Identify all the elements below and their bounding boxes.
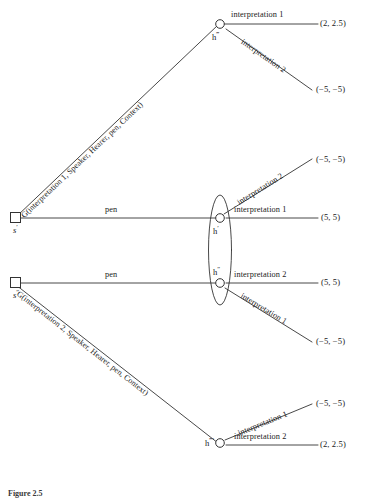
node-h-prime-shape	[216, 214, 225, 223]
node-s-double-prime-shape	[11, 278, 21, 288]
payoff-h4-interp1: (−5, −5)	[316, 399, 345, 408]
node-label-h-double-prime: h″	[213, 266, 221, 276]
node-label-h-prime: h′	[213, 225, 219, 235]
node-label-s-prime: s′	[13, 224, 18, 234]
information-set-oval	[209, 195, 232, 305]
node-h-quadruple-prime-shape	[216, 439, 225, 448]
figure-container: s′ s″ h‴ h′ h″ h‴′ G(interpretation 1, S…	[0, 0, 378, 498]
branch-label-h4-interp2: interpretation 2	[234, 433, 287, 441]
payoff-hdprime-interp2: (5, 5)	[321, 278, 340, 287]
branch-label-sender-bottom-pen: pen	[105, 271, 117, 279]
game-tree-svg	[0, 0, 378, 498]
node-h-triple-prime-shape	[216, 20, 225, 29]
payoff-h3-interp2: (−5, −5)	[316, 85, 345, 94]
branch-label-hprime-interp1: interpretation 1	[234, 206, 287, 214]
payoff-hprime-interp1: (5, 5)	[321, 213, 340, 222]
figure-caption: Figure 2.5	[8, 489, 43, 498]
branch-label-sender-top-pen: pen	[105, 206, 117, 214]
payoff-h4-interp2: (2, 2.5)	[320, 440, 346, 449]
node-s-prime-shape	[11, 213, 21, 223]
node-h-double-prime-shape	[216, 279, 225, 288]
payoff-hdprime-interp1: (−5, −5)	[316, 337, 345, 346]
branch-label-hdprime-interp2: interpretation 2	[234, 271, 287, 279]
node-label-h-triple-prime: h‴	[212, 31, 220, 41]
payoff-h3-interp1: (2, 2.5)	[320, 19, 346, 28]
branch-label-h3-interp1: interpretation 1	[231, 11, 284, 19]
node-label-h-quadruple-prime: h‴′	[205, 437, 214, 447]
payoff-hprime-interp2: (−5, −5)	[316, 155, 345, 164]
